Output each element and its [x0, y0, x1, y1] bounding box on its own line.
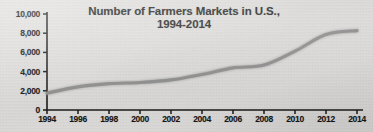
x-axis-tick-label: 2000 [131, 114, 149, 124]
x-axis-tick-label: 2006 [224, 114, 242, 124]
tick-marks [43, 14, 357, 114]
x-axis-tick-label: 2012 [317, 114, 335, 124]
y-axis-tick-label: 4,000 [0, 67, 40, 77]
plot-area [0, 0, 373, 132]
y-axis-tick-label: 6,000 [0, 47, 40, 57]
x-axis-tick-label: 1994 [38, 114, 56, 124]
x-axis-tick-label: 2002 [162, 114, 180, 124]
y-axis-tick-label: 2,000 [0, 86, 40, 96]
y-axis-tick-label: 0 [0, 105, 40, 115]
y-axis-tick-label: 8,000 [0, 28, 40, 38]
chart-figure: Number of Farmers Markets in U.S., 1994-… [0, 0, 373, 132]
x-axis-tick-label: 2010 [286, 114, 304, 124]
axis-group [47, 12, 363, 110]
data-line-group [47, 31, 357, 94]
y-axis-tick-label: 10,000 [0, 9, 40, 19]
x-axis-tick-label: 2014 [348, 114, 366, 124]
x-axis-tick-label: 2004 [193, 114, 211, 124]
x-axis-tick-label: 1996 [69, 114, 87, 124]
x-axis-tick-label: 1998 [100, 114, 118, 124]
x-axis-tick-label: 2008 [255, 114, 273, 124]
